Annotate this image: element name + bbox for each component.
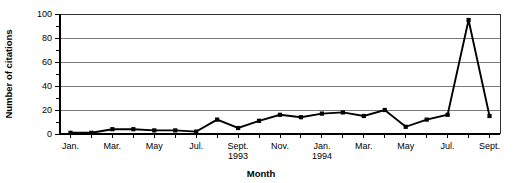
data-point: [320, 112, 324, 116]
x-axis-ticks: [70, 134, 489, 138]
x-tick-label-16: May: [397, 141, 415, 151]
y-tick-label-60: 60: [42, 57, 52, 67]
y-tick-label-20: 20: [42, 105, 52, 115]
y-tick-label-80: 80: [42, 33, 52, 43]
x-tick-label-14: Mar.: [355, 141, 373, 151]
y-tick-label-100: 100: [37, 9, 52, 19]
data-point: [278, 113, 282, 117]
chart-canvas: 020406080100 Jan.Mar.MayJul.Sept.1993Nov…: [0, 0, 520, 183]
y-axis-title: Number of citations: [3, 29, 14, 118]
data-point: [425, 118, 429, 122]
data-point: [446, 113, 450, 117]
x-axis-tick-labels: Jan.Mar.MayJul.Sept.1993Nov.Jan.1994Mar.…: [62, 141, 500, 161]
data-point: [466, 18, 470, 22]
data-point: [299, 115, 303, 119]
data-point: [341, 110, 345, 114]
x-tick-label-year-8: 1993: [228, 151, 248, 161]
y-axis-tick-labels: 020406080100: [37, 9, 52, 139]
y-tick-label-40: 40: [42, 81, 52, 91]
x-tick-label-0: Jan.: [62, 141, 79, 151]
data-point: [68, 131, 72, 135]
y-axis-ticks: [55, 14, 60, 134]
citations-line-chart: 020406080100 Jan.Mar.MayJul.Sept.1993Nov…: [0, 0, 520, 183]
x-tick-label-12: Jan.: [313, 141, 330, 151]
data-point: [89, 131, 93, 135]
x-axis-title: Month: [247, 168, 276, 179]
data-point: [215, 118, 219, 122]
x-tick-label-2: Mar.: [104, 141, 122, 151]
x-tick-label-4: May: [146, 141, 164, 151]
x-tick-label-10: Nov.: [271, 141, 289, 151]
data-point: [487, 114, 491, 118]
data-point: [257, 119, 261, 123]
data-point: [194, 130, 198, 134]
data-point: [173, 128, 177, 132]
data-point: [404, 125, 408, 129]
x-tick-label-20: Sept.: [479, 141, 500, 151]
x-tick-label-6: Jul.: [189, 141, 203, 151]
data-point: [152, 128, 156, 132]
data-point: [236, 126, 240, 130]
x-tick-label-18: Jul.: [441, 141, 455, 151]
x-tick-label-year-12: 1994: [312, 151, 332, 161]
data-point: [110, 127, 114, 131]
data-point: [362, 114, 366, 118]
data-point: [131, 127, 135, 131]
y-tick-label-0: 0: [47, 129, 52, 139]
x-tick-label-8: Sept.: [228, 141, 249, 151]
data-point: [383, 108, 387, 112]
